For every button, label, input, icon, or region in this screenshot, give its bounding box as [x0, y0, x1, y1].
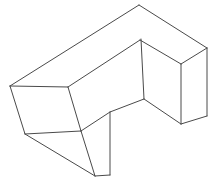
figure-background — [0, 0, 217, 184]
isometric-solid-figure — [0, 0, 217, 184]
